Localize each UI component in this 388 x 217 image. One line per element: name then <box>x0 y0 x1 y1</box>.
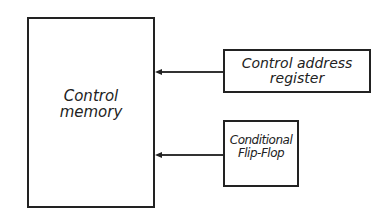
arrowhead-icon <box>155 69 162 75</box>
conditional-flip-flop-box: Conditional Flip-Flop <box>223 120 299 187</box>
car-connector-line <box>160 71 224 73</box>
cff-connector-line <box>160 154 224 156</box>
control-memory-label: Control memory <box>60 89 123 121</box>
arrowhead-icon <box>155 152 162 158</box>
conditional-flip-flop-label: Conditional Flip-Flop <box>230 134 292 159</box>
control-memory-box: Control memory <box>27 17 155 208</box>
control-address-register-label: Control address register <box>242 56 353 85</box>
control-address-register-box: Control address register <box>223 49 371 93</box>
